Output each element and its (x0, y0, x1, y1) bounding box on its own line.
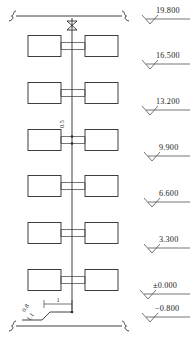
floor-unit-1 (28, 36, 118, 57)
fixture-box-left (28, 176, 61, 197)
elevation-level-symbol (144, 152, 160, 161)
elevation-marker-2: 16.500 (142, 51, 190, 69)
elevation-value: 19.800 (156, 6, 180, 15)
elevation-value: ±0.000 (153, 281, 177, 290)
elevation-level-symbol (142, 60, 158, 69)
elevation-value: 3.300 (159, 235, 178, 244)
dimension-branch-offset: 0.5 (58, 120, 65, 128)
elevation-marker-7: ±0.000 (140, 281, 190, 299)
fixture-box-left (28, 83, 61, 104)
top-break-line (9, 11, 129, 21)
elevation-marker-8: −0.800 (142, 304, 190, 322)
fixture-box-right (85, 223, 118, 244)
elevation-marker-3: 13.200 (142, 97, 190, 115)
bottom-break-line (9, 321, 129, 331)
fixture-box-right (85, 36, 118, 57)
elevation-level-symbol (144, 244, 160, 253)
floor-unit-3 (28, 130, 118, 151)
elevation-level-symbol (142, 106, 158, 115)
elevation-marker-4: 9.900 (144, 143, 190, 161)
fixture-box-right (85, 176, 118, 197)
elevation-marker-5: 6.600 (144, 189, 190, 207)
floor-unit-4 (28, 176, 118, 197)
gate-valve-icon (67, 21, 77, 30)
junction-node-upper (71, 135, 74, 138)
elevation-level-symbol (142, 313, 158, 322)
fixture-box-left (28, 130, 61, 151)
elevation-marker-6: 3.300 (144, 235, 190, 253)
elevation-value: 6.600 (159, 189, 178, 198)
elevation-value: 9.900 (159, 143, 178, 152)
fixture-box-right (85, 270, 118, 291)
fixture-box-right (85, 83, 118, 104)
elevation-level-symbol (140, 290, 156, 299)
floor-unit-2 (28, 83, 118, 104)
fixture-box-left (28, 270, 61, 291)
floor-unit-5 (28, 223, 118, 244)
fixture-box-right (85, 130, 118, 151)
elevation-value: 13.200 (156, 97, 180, 106)
junction-node-lower (71, 142, 74, 145)
elevation-value: −0.800 (155, 304, 179, 313)
elevation-marker-1: 19.800 (142, 6, 190, 24)
elevation-value: 16.500 (156, 51, 180, 60)
elevation-level-symbol (142, 15, 158, 24)
dimension-horizontal-run: 1 (56, 296, 59, 303)
fixture-box-left (28, 223, 61, 244)
riser-diagram-sheet: 0.5 (0, 0, 195, 340)
elevation-level-symbol (144, 198, 160, 207)
floor-unit-6 (28, 270, 118, 291)
fixture-box-left (28, 36, 61, 57)
